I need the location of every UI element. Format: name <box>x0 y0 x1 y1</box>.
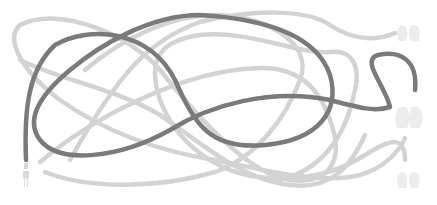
plug-icon <box>23 163 29 187</box>
mitten-pair-icon-top[interactable] <box>397 25 419 41</box>
mitten-pair-icon-bottom[interactable] <box>397 172 419 188</box>
tangled-lines-puzzle <box>0 0 437 205</box>
mitten-pair-icon-middle[interactable] <box>395 107 423 128</box>
